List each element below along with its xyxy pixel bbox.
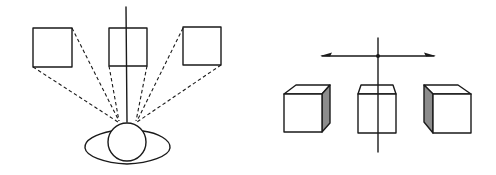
left-panel — [33, 7, 221, 164]
cube-side-face — [322, 85, 330, 132]
cube-side-face — [424, 85, 433, 133]
arrow-left-head-icon — [320, 53, 332, 57]
cube-front-face — [433, 94, 471, 133]
viewer-head — [108, 123, 146, 161]
square-right — [183, 27, 221, 65]
cube-top-face — [358, 85, 396, 94]
right-panel — [284, 38, 471, 152]
cube-center — [358, 85, 396, 133]
sight-line — [137, 65, 221, 122]
cube-front-face — [358, 94, 396, 133]
sight-line — [109, 66, 119, 121]
center-sight-line — [126, 7, 127, 122]
square-center — [109, 28, 147, 66]
cube-left — [284, 85, 330, 132]
square-left — [33, 28, 72, 67]
axis-origin-dot — [376, 54, 380, 58]
cube-right — [424, 85, 471, 133]
arrow-right-head-icon — [424, 53, 436, 57]
cube-front-face — [284, 94, 322, 132]
perspective-diagram — [0, 0, 496, 175]
viewer — [85, 123, 170, 164]
